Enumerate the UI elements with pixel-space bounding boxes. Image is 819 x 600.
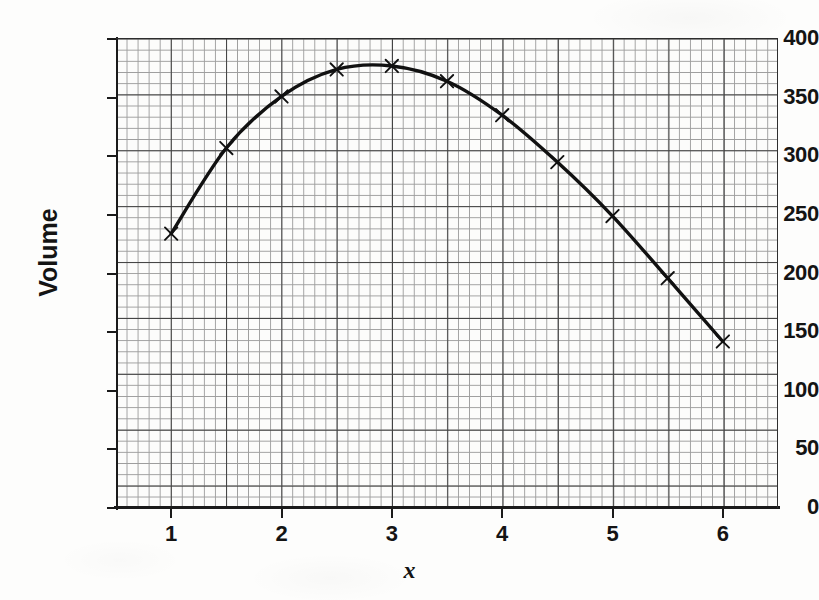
y-tick-mark <box>107 38 116 40</box>
y-tick-label: 250 <box>719 201 819 227</box>
x-tick-label: 2 <box>262 521 302 547</box>
y-axis-line <box>116 37 118 510</box>
x-tick-mark <box>170 508 172 518</box>
y-tick-label: 200 <box>719 260 819 286</box>
x-tick-label: 3 <box>372 521 412 547</box>
y-tick-mark <box>107 97 116 99</box>
y-tick-label: 100 <box>719 377 819 403</box>
major-gridlines <box>116 39 778 508</box>
y-tick-label: 400 <box>719 25 819 51</box>
y-tick-mark <box>107 273 116 275</box>
y-tick-mark <box>107 390 116 392</box>
x-tick-mark <box>612 508 614 518</box>
x-tick-label: 1 <box>151 521 191 547</box>
y-tick-label: 0 <box>719 494 819 520</box>
x-tick-label: 6 <box>703 521 743 547</box>
y-tick-mark <box>107 448 116 450</box>
y-tick-mark <box>107 155 116 157</box>
plot-area <box>116 39 778 508</box>
x-tick-mark <box>722 508 724 518</box>
chart-page: 050100150200250300350400 123456 Volume x <box>0 0 819 600</box>
y-tick-mark <box>107 214 116 216</box>
x-axis-label: x <box>0 557 819 584</box>
y-tick-mark <box>107 507 116 509</box>
y-axis-label: Volume <box>34 153 63 353</box>
y-tick-label: 150 <box>719 318 819 344</box>
x-axis-line <box>114 506 780 509</box>
y-tick-label: 350 <box>719 84 819 110</box>
x-tick-mark <box>501 508 503 518</box>
plot-frame-top <box>116 38 778 39</box>
x-tick-label: 4 <box>482 521 522 547</box>
x-tick-label: 5 <box>593 521 633 547</box>
x-tick-mark <box>391 508 393 518</box>
y-tick-mark <box>107 331 116 333</box>
y-tick-label: 300 <box>719 142 819 168</box>
x-tick-mark <box>281 508 283 518</box>
y-tick-label: 50 <box>719 435 819 461</box>
